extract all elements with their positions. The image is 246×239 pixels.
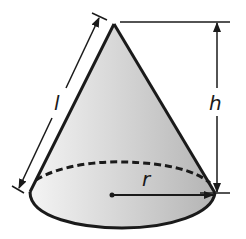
- cone-body: [30, 24, 215, 228]
- slant-top-tick: [92, 13, 107, 20]
- label-slant-height: l: [54, 91, 60, 115]
- cone-figure: l h r: [0, 0, 246, 239]
- cone-diagram: l h r: [0, 0, 246, 239]
- slant-bottom-tick: [12, 186, 24, 193]
- label-height: h: [209, 91, 222, 115]
